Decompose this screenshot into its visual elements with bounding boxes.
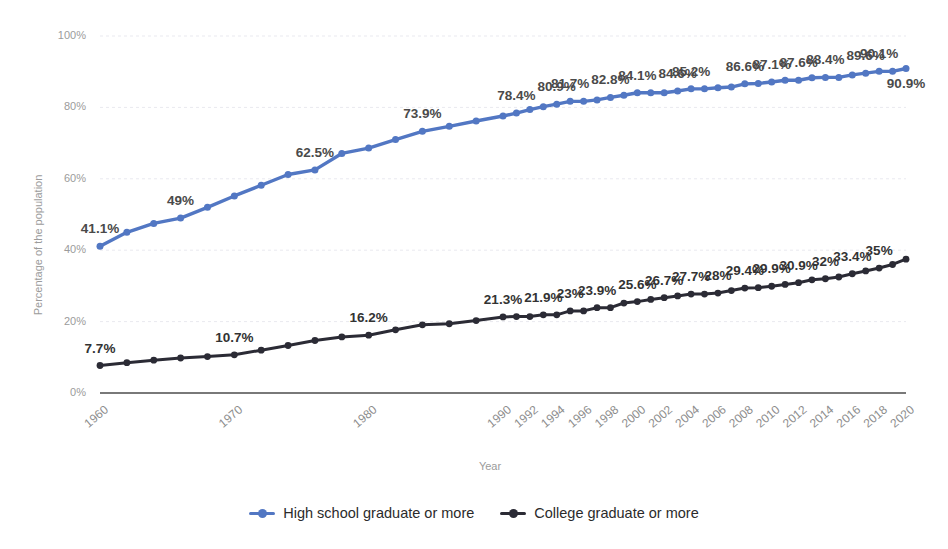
data-point-marker[interactable] xyxy=(876,68,883,75)
data-point-marker[interactable] xyxy=(822,275,829,282)
data-point-marker[interactable] xyxy=(808,74,815,81)
data-point-marker[interactable] xyxy=(365,145,372,152)
data-point-marker[interactable] xyxy=(473,117,480,124)
data-point-marker[interactable] xyxy=(849,71,856,78)
legend-item-college[interactable]: College graduate or more xyxy=(500,505,698,521)
data-point-marker[interactable] xyxy=(607,94,614,101)
data-point-marker[interactable] xyxy=(553,101,560,108)
data-point-marker[interactable] xyxy=(258,182,265,189)
data-point-marker[interactable] xyxy=(889,68,896,75)
data-point-marker[interactable] xyxy=(782,77,789,84)
data-point-marker[interactable] xyxy=(526,313,533,320)
y-tick-label: 40% xyxy=(64,243,86,255)
data-point-marker[interactable] xyxy=(688,291,695,298)
data-point-marker[interactable] xyxy=(889,261,896,268)
data-point-marker[interactable] xyxy=(123,229,130,236)
legend-swatch-high-school xyxy=(249,507,275,519)
data-point-marker[interactable] xyxy=(782,281,789,288)
data-point-marker[interactable] xyxy=(231,192,238,199)
data-point-marker[interactable] xyxy=(835,74,842,81)
data-point-marker[interactable] xyxy=(674,292,681,299)
data-point-marker[interactable] xyxy=(500,112,507,119)
data-point-marker[interactable] xyxy=(204,353,211,360)
data-point-marker[interactable] xyxy=(755,284,762,291)
data-point-marker[interactable] xyxy=(661,294,668,301)
data-point-marker[interactable] xyxy=(97,243,104,250)
data-point-marker[interactable] xyxy=(594,304,601,311)
data-point-marker[interactable] xyxy=(338,334,345,341)
data-point-marker[interactable] xyxy=(513,313,520,320)
data-point-marker[interactable] xyxy=(567,307,574,314)
data-point-marker[interactable] xyxy=(661,89,668,96)
data-point-marker[interactable] xyxy=(231,351,238,358)
data-point-marker[interactable] xyxy=(392,136,399,143)
data-point-marker[interactable] xyxy=(553,311,560,318)
data-point-marker[interactable] xyxy=(768,79,775,86)
data-point-marker[interactable] xyxy=(392,326,399,333)
data-point-marker[interactable] xyxy=(795,77,802,84)
data-point-marker[interactable] xyxy=(701,85,708,92)
data-point-marker[interactable] xyxy=(258,347,265,354)
data-point-marker[interactable] xyxy=(809,276,816,283)
data-point-marker[interactable] xyxy=(620,92,627,99)
data-point-marker[interactable] xyxy=(768,283,775,290)
legend-item-high-school[interactable]: High school graduate or more xyxy=(249,505,474,521)
data-point-marker[interactable] xyxy=(446,123,453,130)
data-point-marker[interactable] xyxy=(540,103,547,110)
data-point-marker[interactable] xyxy=(365,332,372,339)
data-point-marker[interactable] xyxy=(123,359,130,366)
data-point-marker[interactable] xyxy=(647,89,654,96)
data-point-marker[interactable] xyxy=(513,110,520,117)
data-label-high-school: 78.4% xyxy=(497,88,535,103)
data-point-marker[interactable] xyxy=(500,314,507,321)
data-point-marker[interactable] xyxy=(419,128,426,135)
data-point-marker[interactable] xyxy=(311,166,318,173)
data-point-marker[interactable] xyxy=(741,285,748,292)
data-point-marker[interactable] xyxy=(903,256,910,263)
data-point-marker[interactable] xyxy=(419,321,426,328)
data-point-marker[interactable] xyxy=(755,80,762,87)
data-point-marker[interactable] xyxy=(701,291,708,298)
data-point-marker[interactable] xyxy=(338,150,345,157)
x-tick-label: 1980 xyxy=(350,402,380,430)
data-point-marker[interactable] xyxy=(728,84,735,91)
data-point-marker[interactable] xyxy=(526,106,533,113)
data-point-marker[interactable] xyxy=(285,342,292,349)
data-point-marker[interactable] xyxy=(580,98,587,105)
data-point-marker[interactable] xyxy=(903,65,910,72)
data-point-marker[interactable] xyxy=(567,98,574,105)
data-point-marker[interactable] xyxy=(580,307,587,314)
data-point-marker[interactable] xyxy=(446,320,453,327)
y-tick-label: 100% xyxy=(58,29,86,41)
data-point-marker[interactable] xyxy=(862,268,869,275)
data-point-marker[interactable] xyxy=(822,74,829,81)
data-point-marker[interactable] xyxy=(473,317,480,324)
data-point-marker[interactable] xyxy=(674,87,681,94)
data-point-marker[interactable] xyxy=(634,298,641,305)
data-point-marker[interactable] xyxy=(312,337,319,344)
data-point-marker[interactable] xyxy=(150,357,157,364)
data-point-marker[interactable] xyxy=(285,171,292,178)
data-point-marker[interactable] xyxy=(97,362,104,369)
data-point-marker[interactable] xyxy=(647,296,654,303)
data-point-marker[interactable] xyxy=(715,290,722,297)
data-point-marker[interactable] xyxy=(835,274,842,281)
data-point-marker[interactable] xyxy=(876,265,883,272)
data-point-marker[interactable] xyxy=(204,204,211,211)
data-point-marker[interactable] xyxy=(150,220,157,227)
data-point-marker[interactable] xyxy=(795,279,802,286)
data-point-marker[interactable] xyxy=(594,96,601,103)
data-point-marker[interactable] xyxy=(849,270,856,277)
data-point-marker[interactable] xyxy=(621,300,628,307)
data-point-marker[interactable] xyxy=(862,70,869,77)
data-point-marker[interactable] xyxy=(741,80,748,87)
data-point-marker[interactable] xyxy=(540,311,547,318)
data-point-marker[interactable] xyxy=(177,355,184,362)
data-point-marker[interactable] xyxy=(714,84,721,91)
data-point-marker[interactable] xyxy=(728,287,735,294)
data-point-marker[interactable] xyxy=(177,215,184,222)
data-labels-layer: 41.1%49%62.5%73.9%78.4%80.9%81.7%82.8%84… xyxy=(81,46,925,355)
data-point-marker[interactable] xyxy=(634,89,641,96)
data-point-marker[interactable] xyxy=(607,304,614,311)
data-point-marker[interactable] xyxy=(688,85,695,92)
